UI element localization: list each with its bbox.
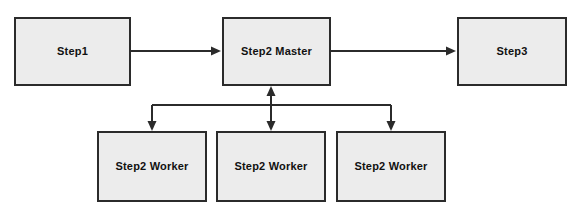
edge-step2-master-to-worker1 [148,105,157,131]
node-step2-worker-1[interactable]: Step2 Worker [97,131,207,202]
node-step3[interactable]: Step3 [457,17,567,86]
node-step2-worker-3[interactable]: Step2 Worker [336,131,446,202]
node-step2-master-label: Step2 Master [241,45,312,57]
node-step2-master[interactable]: Step2 Master [222,17,331,86]
edge-step1-to-step2-master [131,47,221,56]
node-step2-worker-3-label: Step2 Worker [354,160,427,172]
edge-step2-master-to-step3 [331,47,456,56]
edge-step2-master-to-worker3 [387,105,396,131]
node-step1-label: Step1 [57,45,88,57]
node-step1[interactable]: Step1 [14,17,131,86]
node-step2-worker-1-label: Step2 Worker [115,160,188,172]
edge-step2-master-to-worker2 [267,86,276,131]
node-step3-label: Step3 [497,45,528,57]
node-step2-worker-2[interactable]: Step2 Worker [216,131,326,202]
diagram-canvas: Step1 Step2 Master Step3 Step2 Worker St… [0,0,581,216]
node-step2-worker-2-label: Step2 Worker [234,160,307,172]
